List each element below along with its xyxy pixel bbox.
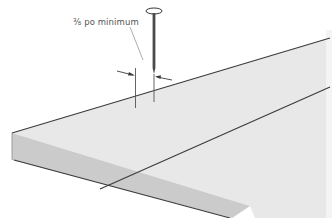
nail-shaft: [153, 13, 156, 68]
dimension-label: ⅜ po minimum: [73, 17, 139, 27]
panel-right-fade: [326, 30, 332, 218]
nail-point: [153, 68, 156, 74]
label-leader-line: [130, 27, 143, 60]
drywall-nailing-diagram: [0, 0, 332, 218]
arrow-right-icon: [155, 75, 161, 79]
arrow-left-icon: [128, 72, 135, 76]
